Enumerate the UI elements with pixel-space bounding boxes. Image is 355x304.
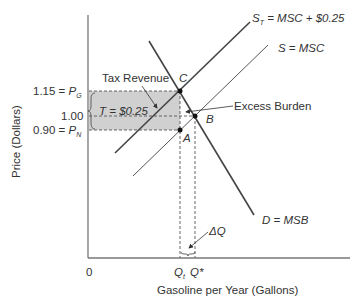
x-axis-label: Gasoline per Year (Gallons) bbox=[157, 284, 298, 296]
delta-q-label: ΔQ bbox=[208, 225, 226, 237]
pn-label: 0.90 = PN bbox=[33, 124, 82, 138]
point-a bbox=[178, 128, 183, 133]
supply-msc-label: S = MSC bbox=[278, 42, 325, 54]
point-a-label: A bbox=[182, 132, 191, 144]
qstar-label: Q* bbox=[190, 266, 204, 278]
point-b-label: B bbox=[206, 113, 214, 125]
demand-msb-label: D = MSB bbox=[262, 214, 309, 226]
delta-q-arrow bbox=[189, 232, 208, 248]
point-c bbox=[178, 89, 183, 94]
qt-label: Qt bbox=[174, 266, 186, 280]
supply-with-tax-label: ST = MSC + $0.25 bbox=[252, 12, 345, 26]
pstar-label: 1.00 bbox=[61, 110, 83, 122]
point-b bbox=[193, 114, 198, 119]
delta-q-brace bbox=[181, 252, 195, 256]
tax-label: T = $0.25 bbox=[99, 105, 149, 117]
origin-label: 0 bbox=[86, 266, 92, 278]
excess-burden-arrow bbox=[186, 106, 233, 112]
y-axis-label: Price (Dollars) bbox=[10, 105, 22, 178]
point-c-label: C bbox=[179, 72, 188, 84]
tax-incidence-diagram: 1.15 = PG 1.00 0.90 = PN Price (Dollars)… bbox=[0, 0, 355, 304]
excess-burden-label: Excess Burden bbox=[234, 100, 311, 112]
pg-label: 1.15 = PG bbox=[33, 85, 82, 99]
tax-revenue-label: Tax Revenue bbox=[102, 72, 169, 84]
